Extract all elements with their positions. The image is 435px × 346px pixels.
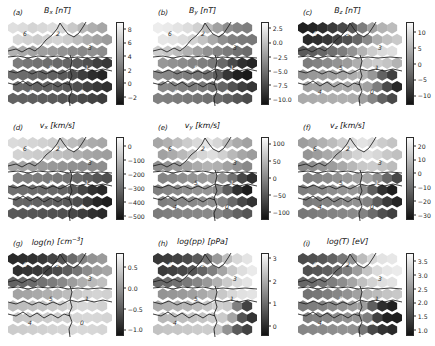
hex-cell [153, 161, 163, 173]
hex-cell [193, 93, 203, 105]
hex-cell [158, 264, 168, 276]
colorbar-tick-label: −1.0 [128, 326, 143, 333]
cluster-label: 5 [194, 64, 198, 71]
hex-cell [87, 253, 97, 265]
tick-mark [414, 302, 416, 303]
panel-title-unit: [eV] [350, 237, 369, 246]
hex-cell [8, 323, 18, 335]
colorbar-tick-label: 2 [128, 66, 132, 73]
hex-cell [23, 288, 33, 300]
colorbar-tick-label: 0.0 [273, 39, 283, 46]
hex-cell [8, 137, 18, 149]
hex-cell [8, 161, 18, 173]
panel-bz: (c)Bz [nT]62351401050−5−10 [290, 0, 435, 115]
panel-title: vx [km/s] [0, 121, 145, 130]
colorbar-tick: 2 [269, 277, 277, 284]
panel-title-main: log(pp) [177, 237, 205, 246]
cluster-label: 6 [23, 30, 27, 37]
hex-cell [242, 208, 252, 220]
tick-mark [269, 194, 271, 195]
hex-cell [13, 81, 23, 93]
hex-cell [67, 161, 77, 173]
cluster-label: 6 [168, 145, 172, 152]
hex-cell [52, 173, 62, 185]
cluster-label: 3 [88, 44, 92, 51]
colorbar-tick: −100 [269, 208, 290, 215]
hexmap-svg: 6235140 [8, 21, 112, 106]
hex-cell [97, 184, 107, 196]
hex-cell [217, 57, 227, 69]
colorbar-tick-label: −7.5 [273, 82, 288, 89]
hex-cell [97, 300, 107, 312]
hex-cell [217, 149, 227, 161]
colorbar-tick: 0 [414, 60, 422, 67]
hex-cell [202, 46, 212, 58]
cluster-label: 2 [346, 260, 350, 267]
hex-cell [202, 93, 212, 105]
colorbar-ticks: 1050−5−10 [414, 22, 435, 105]
colorbar-tick: 0 [124, 80, 132, 87]
hex-cell [212, 22, 222, 34]
hexmap: 6235140 [153, 252, 257, 337]
hexmap: 6235140 [298, 21, 402, 106]
hex-cell [183, 137, 193, 149]
hex-cell [392, 173, 402, 185]
hex-cell [392, 264, 402, 276]
colorbar: 0.50.0−0.5−1.0 [116, 253, 145, 336]
tick-mark [124, 145, 126, 146]
cluster-label: 5 [49, 294, 53, 301]
panel-bx: (a)Bx [nT]623514086420−2 [0, 0, 145, 115]
colorbar-tick: 3 [269, 255, 277, 262]
cluster-label: 6 [313, 145, 317, 152]
hex-cell [342, 57, 352, 69]
colorbar-ticks: 86420−2 [124, 22, 145, 105]
colorbar-tick: 10 [414, 156, 426, 163]
hex-cell [13, 173, 23, 185]
cluster-label: 4 [28, 88, 32, 95]
panel-title: Bz [nT] [290, 6, 435, 15]
colorbar-gradient [261, 253, 269, 336]
hex-cell [298, 253, 308, 265]
colorbar: 100500−50−100 [261, 137, 290, 220]
hex-cell [48, 276, 58, 288]
hex-cell [328, 253, 338, 265]
colorbar-tick-label: −2 [128, 93, 137, 100]
colorbar-tick: −10 [414, 92, 431, 99]
hex-cell [18, 93, 28, 105]
hexmap-svg: 6235140 [8, 252, 112, 337]
hex-cell [158, 57, 168, 69]
hex-cell [338, 161, 348, 173]
hex-cell [382, 149, 392, 161]
hex-cell [28, 300, 38, 312]
colorbar-tick: −0.5 [124, 305, 143, 312]
panel-vx: (d)vx [km/s]62351400−100−200−300−400−500 [0, 115, 145, 230]
panel-title: log(pp) [pPa] [145, 237, 290, 246]
hex-cell [92, 312, 102, 324]
tick-mark [269, 99, 271, 100]
hex-cell [52, 288, 62, 300]
colorbar-tick-label: 2.0 [418, 299, 428, 306]
hex-cell [202, 323, 212, 335]
hex-cell [303, 57, 313, 69]
hex-cell [153, 184, 163, 196]
hex-cell [163, 208, 173, 220]
hex-cell [387, 22, 397, 34]
hex-cell [193, 323, 203, 335]
cluster-label: 3 [378, 159, 382, 166]
colorbar-tick: 8 [124, 25, 132, 32]
hex-cell [87, 323, 97, 335]
cluster-label: 5 [49, 64, 53, 71]
colorbar-tick: 5 [414, 44, 422, 51]
colorbar-tick-label: 2 [273, 277, 277, 284]
hex-cell [328, 323, 338, 335]
colorbar-tick-label: 50 [273, 157, 281, 164]
colorbar-ticks: 3210 [269, 253, 290, 336]
hex-cell [102, 149, 112, 161]
cluster-label: 2 [201, 30, 205, 37]
hexmap-svg: 6235140 [153, 252, 257, 337]
hex-cell [303, 312, 313, 324]
hex-cell [8, 69, 18, 81]
hex-cell [38, 323, 48, 335]
colorbar-tick-label: −2.5 [273, 53, 288, 60]
hex-cell [217, 288, 227, 300]
